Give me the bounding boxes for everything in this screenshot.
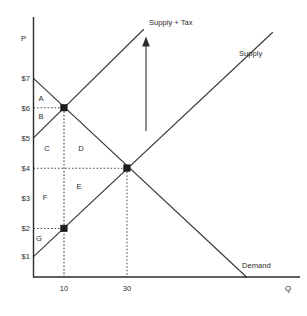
y-tick-label-3: $3 xyxy=(22,194,30,203)
demand-label: Demand xyxy=(242,261,271,270)
supply-plus-tax-curve xyxy=(34,30,144,138)
point-marker-no-tax-equilibrium xyxy=(124,165,131,172)
y-tick-label-5: $5 xyxy=(22,134,30,143)
y-tick-labels-group: $7 $6 $5 $4 $3 $2 $1 xyxy=(22,74,30,261)
supply-demand-tax-diagram: P Q $7 $6 $5 $4 $3 $2 $1 10 30 Supply + … xyxy=(0,0,307,316)
supply-label: Supply xyxy=(239,49,262,58)
supply-plus-tax-label: Supply + Tax xyxy=(149,18,193,27)
tax-arrow xyxy=(142,37,150,132)
y-tick-label-1: $1 xyxy=(22,252,30,261)
curves-group xyxy=(34,30,273,278)
x-tick-label-30: 30 xyxy=(123,284,131,293)
region-label-g: G xyxy=(36,234,42,243)
y-axis-title: P xyxy=(21,34,26,43)
x-tick-label-10: 10 xyxy=(60,284,68,293)
chart-canvas: P Q $7 $6 $5 $4 $3 $2 $1 10 30 Supply + … xyxy=(0,0,307,316)
x-tick-labels-group: 10 30 xyxy=(60,284,131,293)
region-label-e: E xyxy=(76,182,81,191)
point-marker-tax-consumer-price xyxy=(61,104,68,111)
region-label-c: C xyxy=(44,144,50,153)
region-label-b: B xyxy=(38,112,43,121)
point-markers-group xyxy=(61,104,131,231)
region-label-d: D xyxy=(78,144,84,153)
region-label-a: A xyxy=(38,94,44,103)
tax-arrow-head-icon xyxy=(142,37,150,47)
y-tick-label-6: $6 xyxy=(22,104,30,113)
y-tick-label-4: $4 xyxy=(22,164,30,173)
guide-lines-group xyxy=(34,108,128,277)
curve-labels-group: Supply + Tax Supply Demand xyxy=(149,18,271,270)
x-axis-title: Q xyxy=(285,284,291,293)
region-label-f: F xyxy=(43,193,48,202)
point-marker-tax-producer-price xyxy=(61,225,68,232)
supply-curve xyxy=(34,33,273,257)
y-tick-label-2: $2 xyxy=(22,224,30,233)
y-tick-label-7: $7 xyxy=(22,74,30,83)
